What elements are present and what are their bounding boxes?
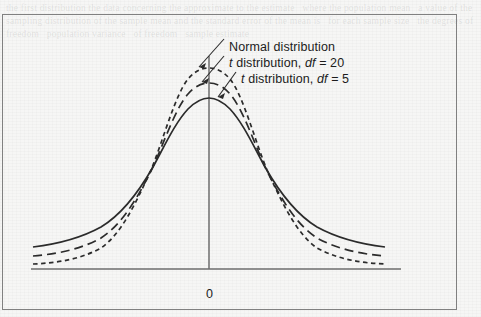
leader-line-normal [199, 39, 224, 67]
annotation-t-distribution-df20: t distribution, df = 20 [229, 56, 344, 70]
t5-value: = 5 [328, 72, 350, 86]
t5-text: distribution, [245, 72, 317, 86]
annotation-t-distribution-df5: t distribution, df = 5 [241, 72, 349, 86]
figure-frame: Normal distribution t distribution, df =… [2, 14, 457, 310]
df-symbol-df20: df [305, 56, 316, 70]
annotation-normal-distribution: Normal distribution [229, 40, 335, 54]
x-axis-tick-label-zero: 0 [206, 287, 213, 301]
plot-area: Normal distribution t distribution, df =… [3, 15, 456, 309]
t20-text: distribution, [233, 56, 305, 70]
t20-value: = 20 [316, 56, 345, 70]
df-symbol-df5: df [317, 72, 328, 86]
